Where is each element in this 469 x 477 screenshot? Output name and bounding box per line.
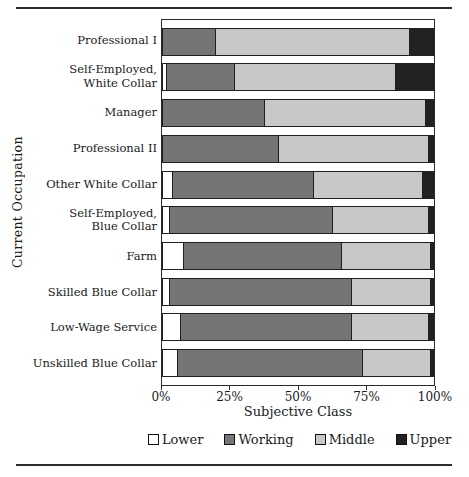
plot-area: [161, 19, 435, 386]
bar-segment-lower: [162, 313, 181, 341]
bar-segment-middle: [342, 242, 432, 270]
bar-row: [162, 171, 434, 199]
bottom-rule: [16, 464, 452, 466]
top-rule: [16, 7, 452, 9]
x-axis-tick-label: 100%: [418, 390, 452, 404]
bar-segment-lower: [162, 242, 184, 270]
bar-row: [162, 242, 434, 270]
bar-segment-working: [162, 99, 265, 127]
bar-row: [162, 28, 434, 56]
bar-segment-working: [170, 206, 333, 234]
bar-segment-middle: [216, 28, 409, 56]
bar-segment-upper: [429, 135, 434, 163]
legend-item-working: Working: [224, 432, 293, 447]
figure: Current Occupation Professional ISelf-Em…: [0, 0, 469, 477]
legend-label: Working: [238, 432, 293, 447]
category-label: Manager: [14, 98, 157, 128]
category-label: Unskilled Blue Collar: [14, 349, 157, 379]
bar-segment-working: [181, 313, 352, 341]
bar-segment-upper: [431, 278, 434, 306]
category-label: Skilled Blue Collar: [14, 277, 157, 307]
legend-item-upper: Upper: [396, 432, 452, 447]
bar-segment-working: [173, 171, 314, 199]
legend-swatch-icon: [224, 434, 235, 445]
x-axis-tick-label: 0%: [151, 390, 170, 404]
bar-row: [162, 99, 434, 127]
legend-label: Lower: [162, 432, 204, 447]
bar-row: [162, 313, 434, 341]
legend-swatch-icon: [396, 434, 407, 445]
bar-segment-upper: [426, 99, 434, 127]
bar-segment-upper: [431, 242, 434, 270]
bar-segment-lower: [162, 171, 173, 199]
x-axis-tick-labels: 0%25%50%75%100%: [161, 390, 435, 404]
category-label: Professional I: [14, 26, 157, 56]
bar-segment-lower: [162, 349, 178, 377]
bar-segment-working: [162, 28, 216, 56]
category-label: Other White Collar: [14, 170, 157, 200]
category-labels: Professional ISelf-Employed, White Colla…: [14, 20, 157, 385]
bar-row: [162, 349, 434, 377]
legend-swatch-icon: [315, 434, 326, 445]
bar-segment-upper: [423, 171, 434, 199]
x-axis-title: Subjective Class: [161, 404, 435, 419]
category-label: Low-Wage Service: [14, 313, 157, 343]
bar-segment-upper: [429, 313, 434, 341]
bar-segment-middle: [235, 63, 395, 91]
bar-segment-upper: [396, 63, 434, 91]
bar-row: [162, 206, 434, 234]
bars-container: [162, 20, 434, 385]
bar-segment-working: [184, 242, 342, 270]
legend-item-lower: Lower: [148, 432, 204, 447]
category-label: Farm: [14, 241, 157, 271]
bar-segment-lower: [162, 206, 170, 234]
category-label: Self-Employed, White Collar: [14, 62, 157, 92]
legend-item-middle: Middle: [315, 432, 375, 447]
bar-segment-middle: [314, 171, 423, 199]
category-label: Professional II: [14, 134, 157, 164]
bar-row: [162, 63, 434, 91]
legend: LowerWorkingMiddleUpper: [130, 431, 469, 447]
bar-row: [162, 135, 434, 163]
bar-row: [162, 278, 434, 306]
x-axis-tick-label: 75%: [353, 390, 380, 404]
category-label: Self-Employed, Blue Collar: [14, 205, 157, 235]
bar-segment-working: [162, 135, 279, 163]
legend-swatch-icon: [148, 434, 159, 445]
bar-segment-middle: [333, 206, 428, 234]
bar-segment-working: [170, 278, 352, 306]
bar-segment-upper: [410, 28, 434, 56]
bar-segment-middle: [363, 349, 431, 377]
x-axis-tick-label: 50%: [285, 390, 312, 404]
bar-segment-middle: [279, 135, 429, 163]
legend-label: Upper: [410, 432, 452, 447]
bar-segment-lower: [162, 278, 170, 306]
bar-segment-middle: [352, 278, 431, 306]
bar-segment-working: [167, 63, 235, 91]
x-axis-tick-label: 25%: [216, 390, 243, 404]
legend-label: Middle: [329, 432, 375, 447]
bar-segment-upper: [429, 206, 434, 234]
bar-segment-working: [178, 349, 363, 377]
bar-segment-middle: [265, 99, 425, 127]
bar-segment-middle: [352, 313, 428, 341]
bar-segment-upper: [431, 349, 434, 377]
